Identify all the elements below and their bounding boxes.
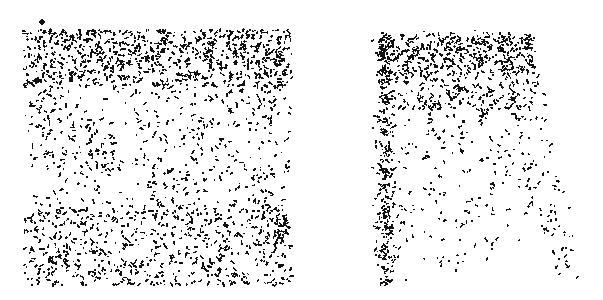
figure-root bbox=[0, 0, 603, 300]
anisotropic-streak-panel bbox=[320, 0, 603, 300]
left-panel-canvas bbox=[0, 0, 320, 300]
right-panel-canvas bbox=[320, 0, 603, 300]
isotropic-speckle-panel bbox=[0, 0, 320, 300]
